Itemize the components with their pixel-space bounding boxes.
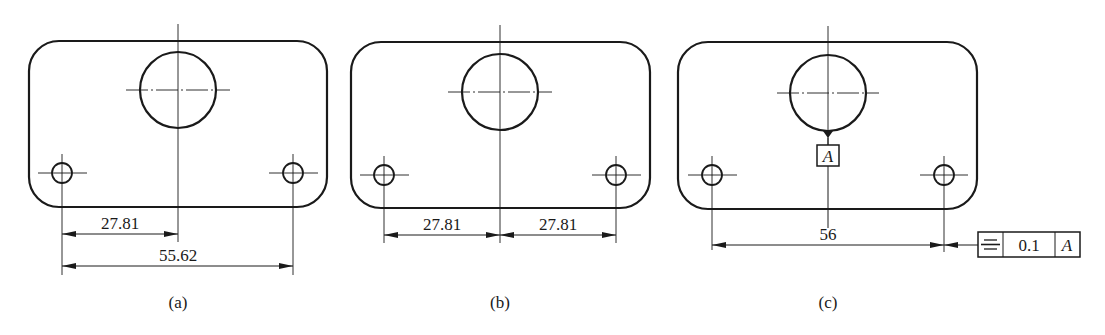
panel-c: A 56 0.1 A (c) — [678, 26, 1080, 312]
feature-control-frame: 0.1 A — [978, 232, 1080, 257]
fcf-tolerance: 0.1 — [1018, 236, 1039, 255]
panel-caption: (b) — [490, 293, 510, 312]
dimension-label: 56 — [820, 225, 837, 244]
dimension-label: 55.62 — [159, 246, 197, 265]
datum-label: A — [822, 147, 834, 166]
datum-triangle — [823, 131, 833, 138]
drawing-canvas: 27.81 55.62 (a) 27.81 27.81 (b) — [0, 0, 1105, 335]
dimension-label: 27.81 — [423, 215, 461, 234]
panel-b: 27.81 27.81 (b) — [351, 25, 650, 312]
plate-outline — [351, 42, 650, 208]
panel-caption: (a) — [169, 293, 188, 312]
dimension-label: 27.81 — [539, 215, 577, 234]
panel-a: 27.81 55.62 (a) — [29, 24, 327, 312]
dimension-label: 27.81 — [101, 214, 139, 233]
fcf-datum: A — [1061, 236, 1073, 255]
panel-caption: (c) — [819, 293, 838, 312]
